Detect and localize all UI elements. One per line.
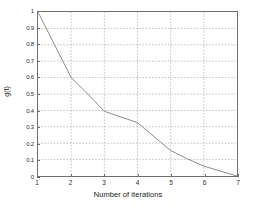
x-tick-mark [138,174,139,177]
x-tick-label: 5 [164,179,178,186]
x-tick-mark [37,174,38,177]
x-tick-mark [205,174,206,177]
x-tick-label: 1 [30,179,44,186]
y-tick-mark [37,160,40,161]
y-tick-mark [37,94,40,95]
y-tick-mark [37,111,40,112]
y-tick-mark [37,44,40,45]
y-tick-label: 0.7 [0,58,34,64]
y-tick-mark [37,61,40,62]
y-tick-label: 0.3 [0,124,34,130]
x-tick-mark [104,174,105,177]
x-tick-mark [238,174,239,177]
y-tick-mark [37,177,40,178]
x-tick-label: 6 [198,179,212,186]
y-tick-label: 0.8 [0,41,34,47]
y-tick-label: 1 [0,8,34,14]
y-tick-mark [37,144,40,145]
x-tick-mark [171,174,172,177]
y-tick-mark [37,77,40,78]
x-axis-title: Number of iterations [0,190,256,199]
y-tick-label: 0.1 [0,157,34,163]
y-axis-title: g(t) [3,70,10,114]
plot-area [37,11,238,177]
series-line-gt [38,12,237,176]
x-tick-label: 4 [131,179,145,186]
figure-canvas: 00.10.20.30.40.50.60.70.80.91 1234567 Nu… [0,0,256,208]
y-tick-label: 0 [0,174,34,180]
x-tick-label: 3 [97,179,111,186]
y-tick-label: 0.9 [0,25,34,31]
y-tick-mark [37,11,40,12]
x-tick-label: 2 [64,179,78,186]
x-tick-label: 7 [231,179,245,186]
y-tick-mark [37,28,40,29]
data-curve [38,12,237,176]
x-tick-mark [71,174,72,177]
y-tick-label: 0.2 [0,141,34,147]
y-tick-mark [37,127,40,128]
